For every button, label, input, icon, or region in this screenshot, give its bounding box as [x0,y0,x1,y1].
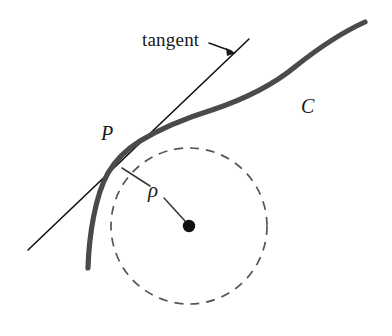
point-p-label: P [101,123,113,143]
osculating-circle-figure: tangent P ρ C [0,0,392,336]
tangent-label: tangent [142,30,199,49]
curve-c-label: C [301,96,314,116]
radius-line-lower-segment [164,198,185,221]
circle-center-dot [183,220,195,232]
radius-line-upper-segment [122,168,150,186]
diagram-canvas [0,0,392,336]
radius-rho-label: ρ [148,180,158,201]
curve-c-path [88,22,365,268]
